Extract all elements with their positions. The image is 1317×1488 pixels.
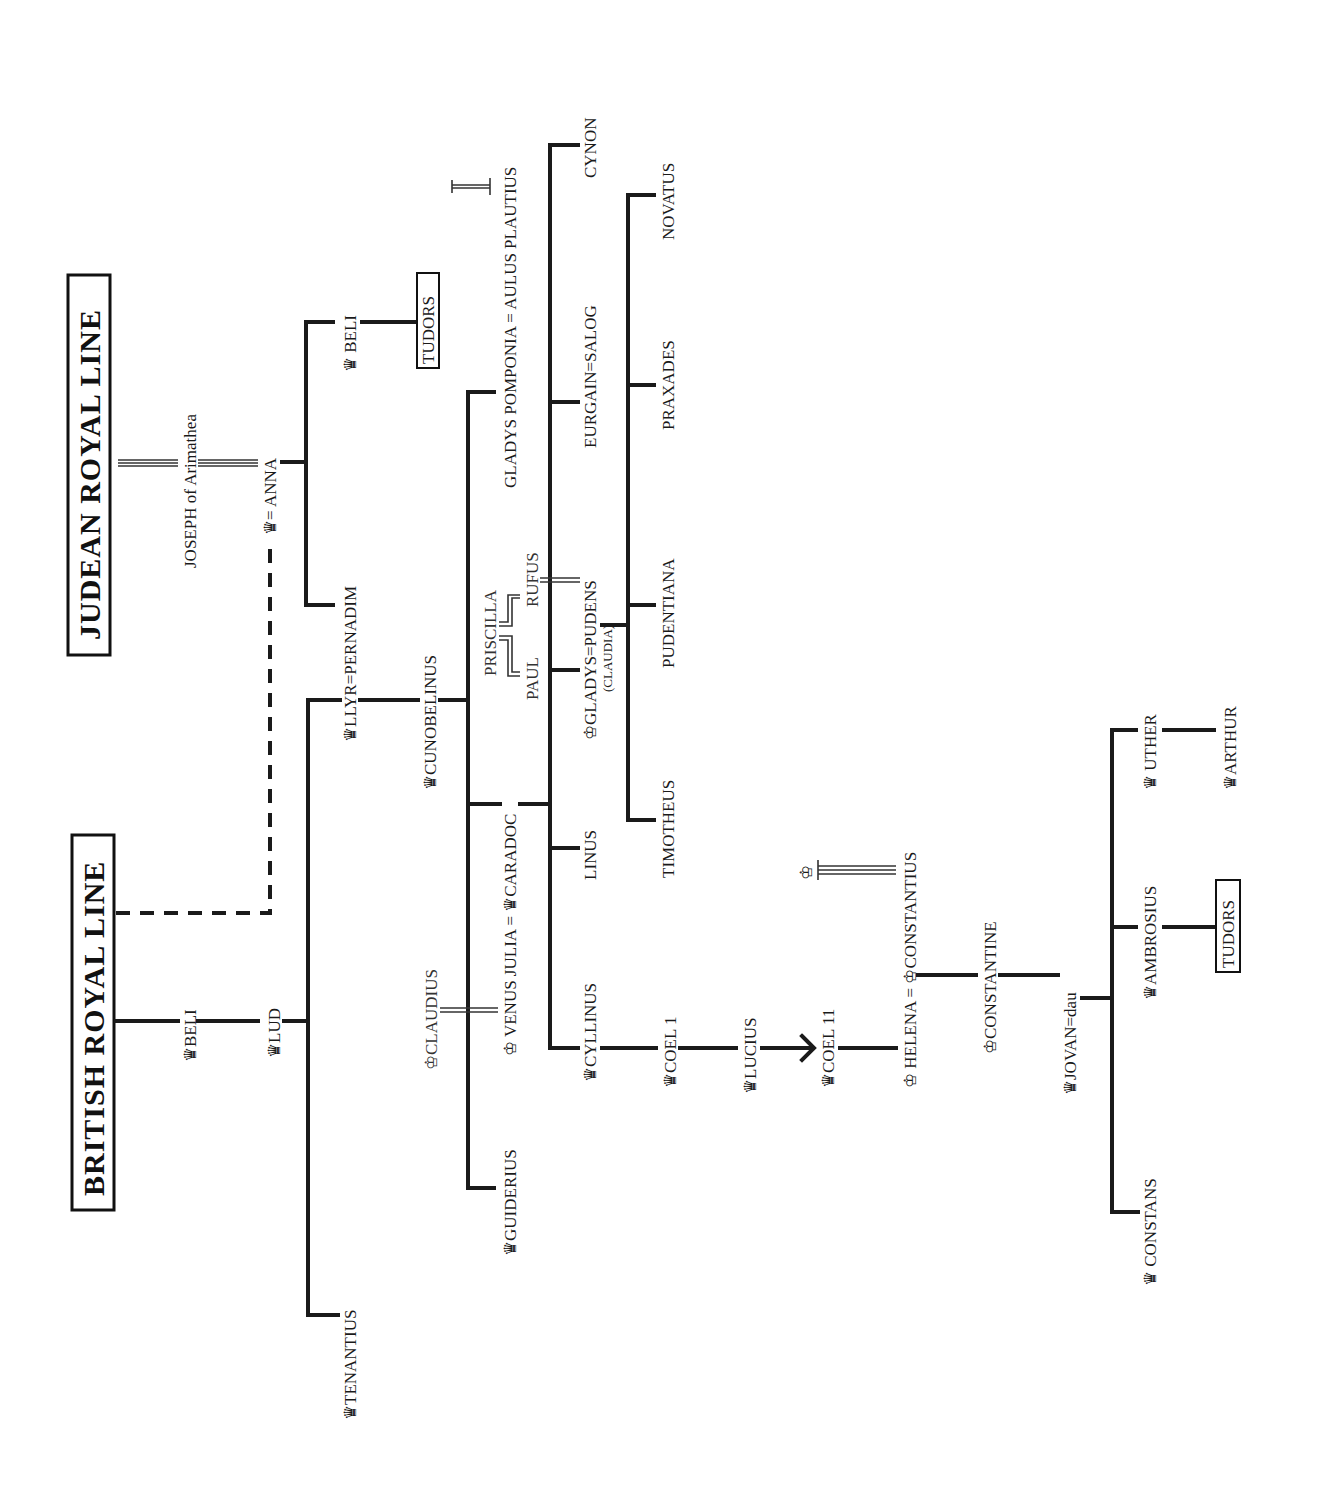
person-cunobelinus: ♛CUNOBELINUS xyxy=(421,655,440,790)
lud-children-bracket xyxy=(308,700,340,1315)
person-priscilla: PRISCILLA xyxy=(481,589,500,676)
person-anna: ♛= ANNA xyxy=(261,457,280,535)
person-pudentiana: PUDENTIANA xyxy=(659,558,678,668)
pudens-children-bracket xyxy=(628,195,654,820)
constantius-ancestry-line xyxy=(818,860,896,880)
person-rufus: RUFUS xyxy=(523,552,542,607)
svg-text:BRITISH ROYAL LINE: BRITISH ROYAL LINE xyxy=(77,861,110,1196)
person-guiderius: ♛GUIDERIUS xyxy=(501,1149,520,1256)
person-lucius: ♛LUCIUS xyxy=(741,1018,760,1094)
person-gladys-pomponia: GLADYS POMPONIA = AULUS PLAUTIUS xyxy=(501,167,520,488)
person-venus-julia-caradoc: ♔ VENUS JULIA = ♛CARADOC xyxy=(501,814,520,1056)
caradoc-children-bracket xyxy=(550,145,578,1048)
person-novatus: NOVATUS xyxy=(659,163,678,240)
person-coel-11: ♛COEL 11 xyxy=(819,1009,838,1088)
person-eurgain: EURGAIN=SALOG xyxy=(581,305,600,448)
person-paul: PAUL xyxy=(523,657,542,700)
person-tenantius: ♛TENANTIUS xyxy=(341,1310,360,1420)
svg-text:JUDEAN ROYAL LINE: JUDEAN ROYAL LINE xyxy=(73,309,106,640)
person-arthur: ♛ARTHUR xyxy=(1221,705,1240,790)
person-claudius: ♔CLAUDIUS xyxy=(422,969,441,1070)
person-ambrosius: ♛AMBROSIUS xyxy=(1141,886,1160,1000)
person-gladys-pudens: ♔GLADYS=PUDENS xyxy=(581,580,600,740)
aulus-plautius-marriage-line xyxy=(452,178,490,195)
judean-royal-line-title: JUDEAN ROYAL LINE xyxy=(68,275,110,655)
jovan-children-bracket xyxy=(1112,730,1138,1212)
person-helena-constantius: ♔ HELENA = ♔CONSTANTIUS xyxy=(901,852,920,1088)
person-constans: ♛ CONSTANS xyxy=(1141,1178,1160,1286)
person-timotheus: TIMOTHEUS xyxy=(659,780,678,878)
genealogy-diagram: JUDEAN ROYAL LINE BRITISH ROYAL LINE JOS… xyxy=(0,0,1317,1488)
cunobelinus-children-bracket xyxy=(468,392,500,1188)
person-beli: ♛BELI xyxy=(181,1009,200,1062)
person-cyllinus: ♛CYLLINUS xyxy=(581,983,600,1082)
person-praxades: PRAXADES xyxy=(659,340,678,430)
tudors-box-2: TUDORS xyxy=(1216,880,1240,972)
constantius-crown-icon: ♔ xyxy=(797,865,816,880)
person-uther: ♛ UTHER xyxy=(1141,713,1160,790)
person-lud: ♛LUD xyxy=(265,1008,284,1058)
person-constantine: ♔CONSTANTINE xyxy=(981,921,1000,1054)
person-linus: LINUS xyxy=(581,830,600,880)
british-royal-line-title: BRITISH ROYAL LINE xyxy=(72,835,114,1210)
person-beli-judean: ♛ BELI xyxy=(341,315,360,372)
person-jovan: ♛JOVAN=dau xyxy=(1061,992,1080,1095)
person-joseph: JOSEPH of Arimathea xyxy=(181,414,200,568)
tudors-box-1: TUDORS xyxy=(417,273,439,368)
person-cynon: CYNON xyxy=(581,118,600,178)
dashed-link-british-to-anna xyxy=(116,548,270,913)
person-claudia: (CLAUDIA) xyxy=(600,625,615,692)
svg-text:TUDORS: TUDORS xyxy=(419,296,438,364)
person-coel-1: ♛COEL 1 xyxy=(661,1016,680,1088)
anna-children-bracket xyxy=(282,322,333,605)
person-llyr: ♛LLYR=PERNADIM xyxy=(341,586,360,742)
svg-text:TUDORS: TUDORS xyxy=(1219,900,1238,968)
